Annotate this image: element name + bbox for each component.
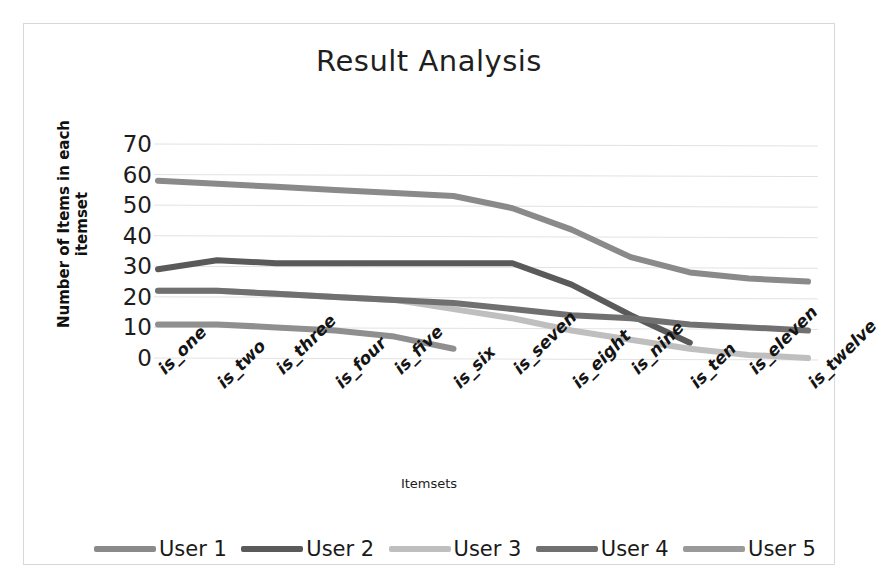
legend-label: User 1 <box>159 537 227 561</box>
gridline <box>154 144 818 146</box>
plot-area <box>158 144 808 358</box>
legend-label: User 3 <box>454 537 522 561</box>
legend-color-swatch <box>683 546 745 552</box>
x-axis-title: Itemsets <box>24 476 834 491</box>
gridline <box>154 236 818 238</box>
x-tick-label: is_twelve <box>804 316 881 393</box>
legend-label: User 4 <box>601 537 669 561</box>
legend-color-swatch <box>241 546 303 552</box>
legend-color-swatch <box>536 546 598 552</box>
chart-legend: User 1User 2User 3User 4User 5 <box>64 529 836 569</box>
y-tick-label: 20 <box>123 286 152 309</box>
chart-frame: Result Analysis Number of Items in each … <box>23 23 835 565</box>
legend-color-swatch <box>94 546 156 552</box>
legend-item[interactable]: User 2 <box>241 537 374 561</box>
x-axis-tick-labels: is_oneis_twois_threeis_fouris_fiveis_six… <box>158 360 808 465</box>
legend-item[interactable]: User 1 <box>94 537 227 561</box>
chart-svg <box>158 144 808 358</box>
y-axis-tick-labels: 706050403020100 <box>86 130 152 372</box>
y-tick-label: 70 <box>123 133 152 156</box>
chart-title: Result Analysis <box>24 44 834 78</box>
legend-item[interactable]: User 5 <box>683 537 816 561</box>
gridline <box>154 175 818 177</box>
y-tick-label: 30 <box>123 255 152 278</box>
legend-label: User 2 <box>306 537 374 561</box>
y-tick-label: 40 <box>123 225 152 248</box>
gridline <box>154 266 818 268</box>
y-tick-label: 10 <box>123 316 152 339</box>
y-tick-label: 50 <box>123 194 152 217</box>
y-tick-label: 60 <box>123 164 152 187</box>
legend-item[interactable]: User 3 <box>389 537 522 561</box>
y-tick-label: 0 <box>137 347 152 370</box>
legend-item[interactable]: User 4 <box>536 537 669 561</box>
legend-label: User 5 <box>748 537 816 561</box>
gridline <box>154 297 818 299</box>
legend-color-swatch <box>389 546 451 552</box>
